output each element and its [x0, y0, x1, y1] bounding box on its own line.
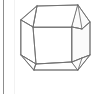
crystal-figure-panel: Line drawing of a truncated polyhedral c… [0, 0, 105, 94]
crystal-face-top-front [33, 5, 78, 27]
crystal-face-front [33, 27, 72, 64]
crystal-polyhedron-drawing [0, 0, 105, 94]
